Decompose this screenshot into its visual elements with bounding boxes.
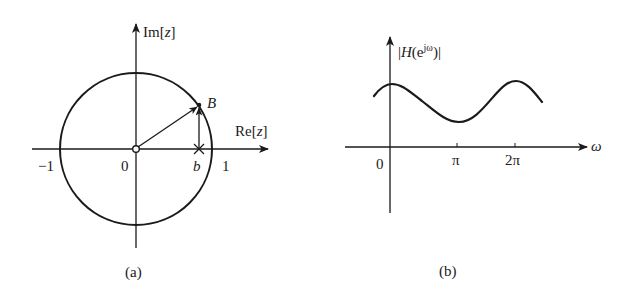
magnitude-curve — [374, 81, 542, 122]
figure-canvas — [0, 0, 621, 306]
caption-b: (b) — [439, 264, 457, 279]
panel-b-magnitude — [345, 37, 587, 213]
im-axis-label: Im[z] — [143, 25, 176, 40]
tick-2pi-label: 2π — [505, 153, 520, 168]
magnitude-axis-label: |H(ejω)| — [398, 43, 441, 60]
tick-zero-a: 0 — [121, 159, 129, 174]
re-axis-label: Re[z] — [235, 124, 268, 139]
zero-marker-icon — [133, 146, 140, 153]
tick-neg-one: −1 — [38, 159, 54, 174]
caption-a: (a) — [125, 265, 142, 280]
point-B-label: B — [207, 96, 216, 111]
vector-origin-to-B — [138, 107, 197, 147]
point-B-dot — [197, 103, 202, 108]
point-b-label: b — [193, 159, 201, 174]
tick-one: 1 — [222, 159, 230, 174]
panel-a-zplane — [32, 24, 268, 248]
tick-zero-b: 0 — [376, 157, 384, 172]
omega-axis-label: ω — [591, 139, 602, 154]
tick-pi-label: π — [452, 153, 460, 168]
